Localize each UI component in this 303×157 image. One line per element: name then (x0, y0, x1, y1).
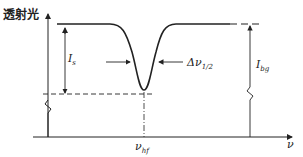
background-intensity-arrow (247, 26, 253, 137)
hf-frequency-symbol: ν (135, 140, 142, 153)
signal-intensity-subscript: s (72, 59, 76, 67)
background-intensity-subscript: bg (260, 65, 269, 73)
axis-break-icon (247, 87, 253, 100)
y-axis-label: 透射光 (3, 5, 39, 22)
background-intensity-label: Ibg (256, 58, 269, 73)
linewidth-symbol: Δν (187, 56, 202, 69)
linewidth-label: Δν1/2 (187, 56, 213, 71)
x-axis-label: ν (287, 138, 294, 151)
signal-intensity-label: Is (68, 52, 76, 67)
hf-frequency-subscript: hf (142, 147, 149, 155)
y-axis (45, 14, 51, 137)
linewidth-subscript: 1/2 (202, 63, 213, 71)
transmission-dip-diagram (0, 0, 303, 157)
hf-frequency-label: νhf (135, 140, 149, 155)
